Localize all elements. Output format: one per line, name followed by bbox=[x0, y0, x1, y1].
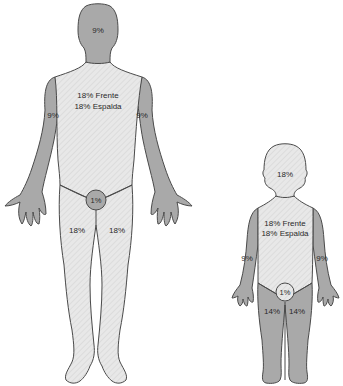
adult-head-label: 9% bbox=[92, 26, 104, 35]
child-trunk-front-label: 18% Frente bbox=[264, 219, 306, 228]
adult-arm-left-label: 9% bbox=[136, 111, 148, 120]
child-trunk bbox=[258, 196, 313, 295]
rule-of-nines-diagram: 9% 18% Frente 18% Espalda 9% 9% 1% 18% 1… bbox=[0, 0, 343, 386]
adult-genitals-label: 1% bbox=[91, 196, 102, 205]
child-figure: 18% 18% Frente 18% Espalda 9% 9% 1% 14% … bbox=[232, 144, 339, 384]
adult-arm-right bbox=[5, 77, 60, 226]
child-head-label: 18% bbox=[277, 170, 293, 179]
adult-trunk-front-label: 18% Frente bbox=[77, 91, 119, 100]
adult-trunk bbox=[55, 62, 142, 198]
child-arm-left-label: 9% bbox=[316, 254, 328, 263]
child-leg-left-label: 14% bbox=[289, 307, 305, 316]
child-trunk-back-label: 18% Espalda bbox=[261, 229, 309, 238]
adult-leg-left-label: 18% bbox=[109, 226, 125, 235]
adult-arm-right-label: 9% bbox=[47, 111, 59, 120]
adult-trunk-back-label: 18% Espalda bbox=[74, 102, 122, 111]
adult-leg-right-label: 18% bbox=[69, 226, 85, 235]
child-genitals-label: 1% bbox=[280, 288, 291, 297]
adult-figure: 9% 18% Frente 18% Espalda 9% 9% 1% 18% 1… bbox=[5, 4, 192, 383]
adult-arm-left bbox=[137, 77, 192, 226]
child-leg-right-label: 14% bbox=[264, 307, 280, 316]
child-arm-right-label: 9% bbox=[241, 254, 253, 263]
